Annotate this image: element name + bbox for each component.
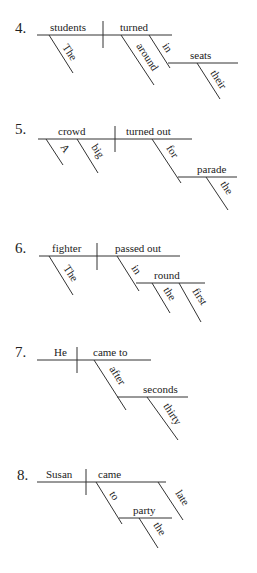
object-word: parade xyxy=(197,163,226,175)
diagram-8: 8. Susan came to party the late xyxy=(17,467,192,548)
diagram-4: 4. students turned The around in seats t… xyxy=(15,20,238,99)
preposition-word: to xyxy=(107,489,122,503)
object-word: round xyxy=(154,269,180,281)
modifier-word: first xyxy=(190,286,210,307)
diagram-5: 5. crowd turned out A big for parade the xyxy=(15,121,237,210)
preposition-word: after xyxy=(107,364,128,388)
object-word: party xyxy=(133,504,156,516)
modifier-word: big xyxy=(89,142,107,161)
predicate-word: turned out xyxy=(126,125,171,137)
object-word: seconds xyxy=(143,383,178,395)
subject-word: students xyxy=(50,21,86,33)
predicate-word: passed out xyxy=(115,242,161,254)
diagram-number: 8. xyxy=(17,467,28,483)
preposition-word: in xyxy=(160,41,175,55)
preposition-word: for xyxy=(164,143,181,161)
modifier-word: their xyxy=(208,68,229,92)
diagram-6: 6. fighter passed out The in round the f… xyxy=(15,240,210,322)
diagram-number: 7. xyxy=(15,344,26,360)
modifier-word: around xyxy=(134,41,161,74)
subject-word: fighter xyxy=(52,242,82,254)
modifier-word: thirty xyxy=(161,401,184,428)
preposition-word: in xyxy=(129,263,144,277)
modifier-word: The xyxy=(60,42,79,63)
subject-word: crowd xyxy=(58,125,86,137)
diagram-number: 4. xyxy=(15,20,26,36)
diagram-number: 5. xyxy=(15,121,26,137)
predicate-word: came to xyxy=(93,346,128,358)
subject-word: Susan xyxy=(46,468,73,480)
predicate-word: turned xyxy=(120,21,149,33)
sentence-diagrams: 4. students turned The around in seats t… xyxy=(0,0,257,573)
subject-word: He xyxy=(54,346,67,358)
modifier-word: the xyxy=(151,520,168,538)
diagram-7: 7. He came to after seconds thirty xyxy=(15,344,188,440)
diagram-number: 6. xyxy=(15,240,26,256)
predicate-word: came xyxy=(98,468,121,480)
modifier-word: the xyxy=(218,179,235,197)
modifier-word: the xyxy=(161,285,178,303)
modifier-word: A xyxy=(58,142,72,155)
modifier-word: late xyxy=(173,488,192,508)
modifier-line xyxy=(46,139,63,165)
object-word: seats xyxy=(190,49,211,61)
